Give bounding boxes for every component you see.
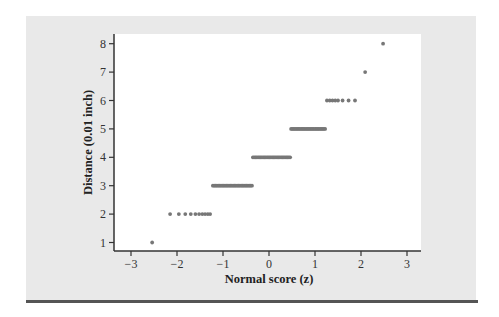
x-axis-title: Normal score (z) <box>225 272 314 286</box>
data-point <box>168 212 172 216</box>
data-point <box>288 155 292 159</box>
data-point <box>353 99 357 103</box>
data-point <box>323 127 327 131</box>
data-point <box>194 212 198 216</box>
x-tick-label: 1 <box>312 257 318 271</box>
data-point <box>250 184 254 188</box>
data-point <box>208 212 212 216</box>
data-point <box>177 212 181 216</box>
y-tick-label: 1 <box>100 236 106 250</box>
data-point <box>150 241 154 245</box>
y-tick-label: 6 <box>100 94 106 108</box>
y-tick-label: 5 <box>100 122 106 136</box>
y-tick-label: 8 <box>100 37 106 51</box>
data-point <box>183 212 187 216</box>
plot-area <box>114 34 421 251</box>
data-point <box>347 99 351 103</box>
x-tick-label: 3 <box>404 257 410 271</box>
data-point <box>189 212 193 216</box>
y-axis-title: Distance (0.01 inch) <box>81 90 95 195</box>
data-point <box>341 99 345 103</box>
x-tick-label: −3 <box>125 257 138 271</box>
y-tick-label: 3 <box>100 179 106 193</box>
data-point <box>363 70 367 74</box>
y-tick-label: 7 <box>100 65 106 79</box>
x-tick-label: −1 <box>217 257 230 271</box>
data-point <box>381 42 385 46</box>
x-tick-label: 2 <box>358 257 364 271</box>
x-tick-label: −2 <box>171 257 184 271</box>
y-tick-label: 4 <box>100 150 106 164</box>
y-tick-label: 2 <box>100 207 106 221</box>
x-tick-label: 0 <box>266 257 272 271</box>
normal-probability-plot: −3−2−1012312345678 Normal score (z) Dist… <box>0 0 499 317</box>
data-point <box>336 99 340 103</box>
